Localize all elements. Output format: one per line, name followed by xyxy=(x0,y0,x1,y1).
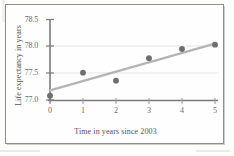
scan-artifact xyxy=(196,150,230,152)
x-tick-label-4: 4 xyxy=(176,106,188,115)
figure-root: 78.5 78.0 77.5 77.0 0 1 2 3 4 5 Time in … xyxy=(0,0,234,156)
data-point xyxy=(80,70,86,76)
data-point xyxy=(212,42,218,48)
x-axis-title: Time in years since 2003 xyxy=(6,127,225,136)
axes xyxy=(48,19,218,101)
plot-area: 78.5 78.0 77.5 77.0 0 1 2 3 4 5 Time in … xyxy=(6,5,225,145)
x-tick-label-1: 1 xyxy=(77,106,89,115)
data-point xyxy=(47,93,53,99)
x-tick-label-5: 5 xyxy=(209,106,221,115)
data-point xyxy=(146,55,152,61)
data-point xyxy=(113,78,119,84)
scan-artifact xyxy=(0,150,40,152)
x-tick-label-0: 0 xyxy=(44,106,56,115)
figure-border: 78.5 78.0 77.5 77.0 0 1 2 3 4 5 Time in … xyxy=(5,4,224,144)
x-tick-label-2: 2 xyxy=(110,106,122,115)
y-axis-title: Life expectancy in years xyxy=(14,6,23,126)
data-point xyxy=(179,46,185,52)
trend-line xyxy=(50,44,215,91)
x-tick-label-3: 3 xyxy=(143,106,155,115)
scatter-chart xyxy=(6,5,225,145)
